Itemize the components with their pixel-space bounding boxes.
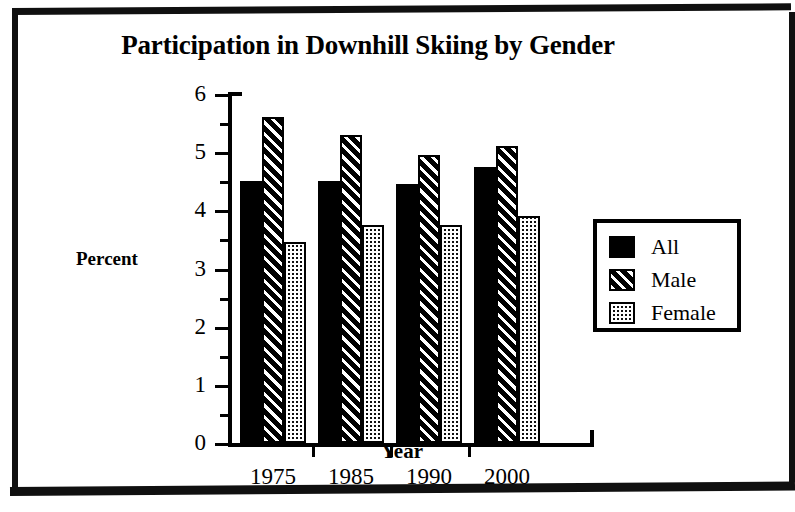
y-tick-major: 5 (215, 152, 232, 155)
page-border-right (789, 12, 795, 482)
legend-item-male: Male (609, 264, 737, 295)
bar-all-2000 (474, 167, 496, 443)
bar-male-1985 (340, 135, 362, 443)
scanned-page: Participation in Downhill Skiing by Gend… (0, 0, 795, 512)
page-border-top (12, 3, 791, 15)
bar-all-1975 (240, 181, 262, 443)
legend-label: Female (651, 302, 716, 324)
legend-swatch-female (609, 302, 635, 324)
chart-title: Participation in Downhill Skiing by Gend… (18, 30, 718, 61)
bars-layer (232, 94, 594, 443)
y-tick-label: 5 (195, 139, 207, 165)
y-tick-minor (220, 123, 232, 126)
bar-all-1985 (318, 181, 340, 443)
legend-label: Male (651, 269, 696, 291)
legend-item-all: All (609, 231, 737, 262)
x-tick-label-1990: 1990 (399, 464, 459, 490)
y-tick-label: 2 (195, 314, 207, 340)
chart-legend: AllMaleFemale (593, 219, 741, 332)
y-axis-title: Percent (76, 248, 138, 270)
bar-male-2000 (496, 146, 518, 443)
y-tick-label: 4 (195, 197, 207, 223)
y-tick-label: 0 (195, 430, 207, 456)
y-tick-major: 6 (215, 94, 232, 97)
y-tick-major: 3 (215, 269, 232, 272)
bar-male-1990 (418, 155, 440, 443)
legend-swatch-male (609, 269, 635, 291)
y-tick-minor (220, 356, 232, 359)
bar-female-1975 (284, 242, 306, 443)
bar-male-1975 (262, 117, 284, 443)
x-tick-label-1985: 1985 (321, 464, 381, 490)
legend-label: All (651, 236, 679, 258)
y-tick-major: 2 (215, 327, 232, 330)
bar-female-1985 (362, 225, 384, 443)
y-tick-major: 1 (215, 385, 232, 388)
bar-all-1990 (396, 184, 418, 443)
y-tick-minor (220, 239, 232, 242)
y-tick-label: 1 (195, 372, 207, 398)
x-tick-label-1975: 1975 (243, 464, 303, 490)
legend-swatch-all (609, 236, 635, 258)
x-axis-title: Year (212, 439, 592, 464)
plot-area: 0123456 1975198519902000 (212, 78, 592, 446)
y-tick-minor (220, 414, 232, 417)
bar-female-2000 (518, 216, 540, 443)
y-tick-label: 6 (195, 81, 207, 107)
bar-female-1990 (440, 225, 462, 443)
legend-item-female: Female (609, 297, 737, 328)
y-tick-minor (220, 298, 232, 301)
y-tick-major: 4 (215, 210, 232, 213)
x-tick-label-2000: 2000 (477, 464, 537, 490)
bar-chart: Participation in Downhill Skiing by Gend… (18, 16, 789, 486)
y-tick-minor (220, 181, 232, 184)
y-tick-label: 3 (195, 256, 207, 282)
